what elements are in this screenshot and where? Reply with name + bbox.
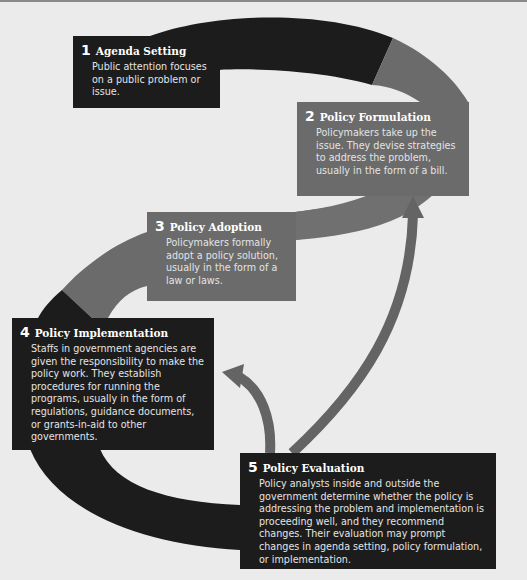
stage-header: 4 Policy Implementation xyxy=(20,324,206,340)
stage-title: Policy Adoption xyxy=(170,221,262,233)
stage-title: Policy Formulation xyxy=(320,111,431,123)
stage-policy-evaluation: 5 Policy Evaluation Policy analysts insi… xyxy=(240,453,496,569)
stage-number: 1 xyxy=(81,42,91,58)
stage-number: 5 xyxy=(248,459,258,475)
stage-agenda-setting: 1 Agenda Setting Public attention focuse… xyxy=(73,36,220,108)
stage-description: Policymakers take up the issue. They dev… xyxy=(305,127,461,177)
stage-header: 2 Policy Formulation xyxy=(305,108,461,124)
stage-header: 3 Policy Adoption xyxy=(155,218,288,234)
feedback-arrow-to-formulation xyxy=(292,215,413,453)
stage-title: Policy Evaluation xyxy=(263,462,365,474)
stage-header: 5 Policy Evaluation xyxy=(248,459,488,475)
stage-title: Agenda Setting xyxy=(96,45,187,57)
stage-description: Staffs in government agencies are given … xyxy=(20,343,206,444)
stage-header: 1 Agenda Setting xyxy=(81,42,212,58)
stage-description: Policymakers formally adopt a policy sol… xyxy=(155,237,288,287)
stage-description: Public attention focuses on a public pro… xyxy=(81,61,212,99)
stage-policy-formulation: 2 Policy Formulation Policymakers take u… xyxy=(297,102,469,196)
stage-policy-implementation: 4 Policy Implementation Staffs in govern… xyxy=(12,318,214,450)
stage-number: 3 xyxy=(155,218,165,234)
band-implementation-to-evaluation-dark xyxy=(30,449,240,550)
stage-policy-adoption: 3 Policy Adoption Policymakers formally … xyxy=(147,212,296,301)
stage-description: Policy analysts inside and outside the g… xyxy=(248,478,488,566)
stage-title: Policy Implementation xyxy=(35,327,168,339)
stage-number: 4 xyxy=(20,324,30,340)
feedback-arrow-to-implementation xyxy=(238,376,270,453)
stage-number: 2 xyxy=(305,108,315,124)
arrowhead-to-implementation-icon xyxy=(222,364,244,388)
